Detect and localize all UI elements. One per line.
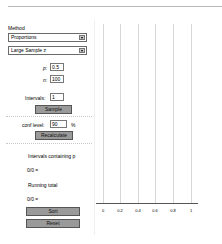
method-label: Method xyxy=(8,25,25,31)
x-tick-label: 0 xyxy=(102,208,104,213)
sort-button[interactable]: Sort xyxy=(26,207,80,216)
recalculate-button[interactable]: Recalculate xyxy=(35,131,73,140)
method-select[interactable]: Proportions xyxy=(8,33,87,42)
intervals-containing-value: 0/0 = xyxy=(27,167,38,173)
n-input[interactable]: 100 xyxy=(50,75,64,83)
gridline-1 xyxy=(191,24,192,203)
conf-level-input[interactable]: 90 xyxy=(50,120,67,128)
running-total-value: 0/0 = xyxy=(27,196,38,202)
x-tick-label: 0.6 xyxy=(152,208,158,213)
x-tick-label: 1 xyxy=(190,208,192,213)
sample-button[interactable]: Sample xyxy=(35,105,72,114)
section-divider xyxy=(6,116,92,117)
x-tick-label: 0.2 xyxy=(117,208,123,213)
n-label: n: xyxy=(43,77,47,83)
gridline-0 xyxy=(103,24,104,203)
chevron-down-icon[interactable] xyxy=(79,48,85,53)
gridline-0.8 xyxy=(173,24,174,203)
procedure-select[interactable]: Large Sample z xyxy=(8,46,87,55)
gridline-0.4 xyxy=(138,24,139,203)
intervals-label: Intervals: xyxy=(25,95,45,101)
intervals-containing-label: Intervals containing p xyxy=(28,153,75,159)
x-axis xyxy=(96,203,198,204)
panel-divider xyxy=(94,20,95,235)
chevron-down-icon[interactable] xyxy=(79,35,85,40)
x-tick-label: 0.8 xyxy=(170,208,176,213)
method-select-value: Proportions xyxy=(11,34,37,40)
x-tick-label: 0.4 xyxy=(135,208,141,213)
reset-button[interactable]: Reset xyxy=(26,219,80,228)
running-total-label: Running total xyxy=(28,182,57,188)
p-input[interactable]: 0.5 xyxy=(50,63,64,71)
gridline-0.2 xyxy=(120,24,121,203)
intervals-input[interactable]: 1 xyxy=(50,93,64,101)
gridline-0.6 xyxy=(155,24,156,203)
p-label: p: xyxy=(43,65,47,71)
procedure-select-value: Large Sample z xyxy=(11,47,46,53)
conf-level-label: conf level: xyxy=(22,122,45,128)
percent-label: % xyxy=(71,122,75,128)
section-divider xyxy=(6,143,92,144)
header-divider xyxy=(8,6,222,7)
